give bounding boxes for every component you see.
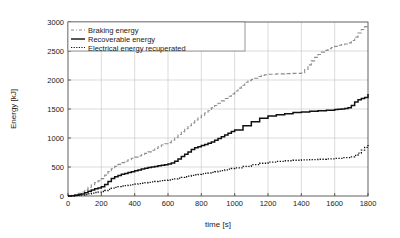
- y-tick-0: 0: [60, 192, 64, 201]
- x-tick-1200: 1200: [260, 199, 277, 208]
- x-tick-1000: 1000: [226, 199, 243, 208]
- y-tick-2000: 2000: [47, 76, 64, 85]
- chart-figure: 020040060080010001200140016001800 050010…: [0, 0, 400, 238]
- y-tick-500: 500: [51, 163, 64, 172]
- chart-legend: Braking energy Recoverable energy Electr…: [68, 22, 245, 53]
- x-tick-400: 400: [128, 199, 141, 208]
- y-tick-1000: 1000: [47, 134, 64, 143]
- x-tick-1400: 1400: [293, 199, 310, 208]
- energy-line-chart: 020040060080010001200140016001800 050010…: [0, 0, 400, 238]
- x-axis-label: time [s]: [205, 220, 231, 229]
- x-tick-600: 600: [162, 199, 175, 208]
- x-tick-1800: 1800: [360, 199, 377, 208]
- legend-label-electrical-energy: Electrical energy recuperated: [88, 44, 186, 53]
- x-tick-200: 200: [95, 199, 108, 208]
- x-tick-0: 0: [66, 199, 70, 208]
- y-tick-1500: 1500: [47, 105, 64, 114]
- legend-item-electrical-energy: Electrical energy recuperated: [71, 44, 186, 53]
- legend-label-braking-energy: Braking energy: [88, 26, 139, 35]
- x-tick-800: 800: [195, 199, 208, 208]
- y-axis-label: Energy [kJ]: [9, 89, 18, 129]
- x-tick-1600: 1600: [326, 199, 343, 208]
- y-tick-3000: 3000: [47, 18, 64, 27]
- y-tick-2500: 2500: [47, 47, 64, 56]
